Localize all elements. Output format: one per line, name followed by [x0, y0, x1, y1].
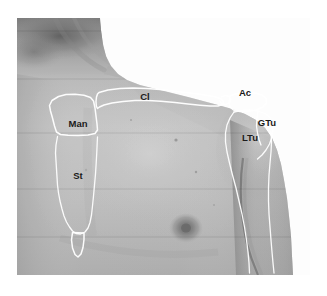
photo-frame [4, 12, 310, 275]
photograph-layer [0, 0, 327, 296]
anatomy-figure: ManStClAcGTuLTu [0, 0, 327, 296]
